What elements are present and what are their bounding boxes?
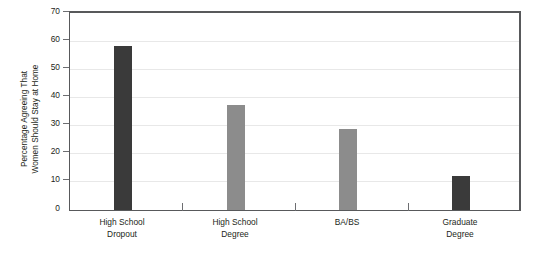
x-axis-label-graduate-degree: Graduate Degree	[400, 217, 520, 240]
bar-high-school-dropout	[114, 46, 132, 210]
y-tick-label-0: 0	[34, 204, 60, 213]
x-label-3-line-1: Graduate	[400, 217, 520, 229]
bar-graduate-degree	[452, 176, 470, 210]
y-tick-label-50: 50	[34, 63, 60, 72]
plot-area	[69, 11, 521, 211]
x-axis-label-ba-bs: BA/BS	[287, 217, 407, 229]
x-label-1-line-2: Degree	[175, 229, 295, 241]
x-axis-label-high-school-degree: High School Degree	[175, 217, 295, 240]
y-tick-label-20: 20	[34, 147, 60, 156]
bar-high-school-degree	[227, 105, 245, 210]
y-tick-label-70: 70	[34, 7, 60, 16]
x-tick-mark-3	[408, 203, 409, 211]
bar-ba-bs	[339, 129, 357, 210]
y-axis-tick-labels: 70 60 50 40 30 20 10 0	[34, 0, 60, 225]
y-tick-label-30: 30	[34, 119, 60, 128]
x-label-3-line-2: Degree	[400, 229, 520, 241]
x-label-0-line-2: Dropout	[62, 229, 182, 241]
y-axis-title-line-1: Percentage Agreeing That	[20, 17, 31, 222]
bars-layer	[70, 13, 519, 210]
y-tick-label-10: 10	[34, 175, 60, 184]
x-tick-mark-2	[295, 203, 296, 211]
x-axis-labels: High School Dropout High School Degree B…	[69, 217, 521, 251]
x-tick-mark-1	[182, 203, 183, 211]
y-tick-label-60: 60	[34, 35, 60, 44]
x-label-1-line-1: High School	[175, 217, 295, 229]
x-label-0-line-1: High School	[62, 217, 182, 229]
x-label-2-line-1: BA/BS	[287, 217, 407, 229]
x-axis-label-high-school-dropout: High School Dropout	[62, 217, 182, 240]
bar-chart-figure: Percentage Agreeing That Women Should St…	[0, 0, 542, 253]
y-tick-label-40: 40	[34, 91, 60, 100]
